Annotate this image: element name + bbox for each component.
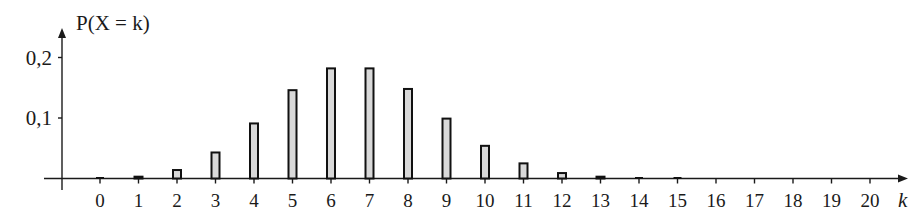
x-tick-label: 11	[514, 190, 532, 211]
x-ticks: 01234567891011121314151617181920	[95, 179, 879, 212]
x-tick-label: 10	[476, 190, 495, 211]
x-tick-label: 2	[172, 190, 182, 211]
bar	[597, 177, 605, 179]
x-tick-label: 6	[326, 190, 336, 211]
bar	[443, 119, 451, 179]
bar	[250, 123, 258, 178]
x-tick-label: 5	[288, 190, 298, 211]
x-axis-arrow-icon	[898, 175, 908, 183]
x-tick-label: 15	[668, 190, 687, 211]
x-tick-label: 18	[784, 190, 803, 211]
bar	[558, 173, 566, 178]
x-tick-label: 9	[442, 190, 452, 211]
bar	[520, 163, 528, 178]
x-tick-label: 13	[591, 190, 610, 211]
x-tick-label: 7	[365, 190, 375, 211]
bar	[404, 89, 412, 179]
probability-bar-chart: 0,10,2 01234567891011121314151617181920 …	[0, 0, 924, 224]
x-tick-label: 3	[211, 190, 221, 211]
y-tick-label: 0,1	[26, 106, 52, 130]
y-ticks: 0,10,2	[26, 46, 62, 131]
bar	[481, 146, 489, 179]
x-tick-label: 12	[553, 190, 572, 211]
x-tick-label: 1	[134, 190, 144, 211]
x-tick-label: 4	[249, 190, 259, 211]
x-tick-label: 14	[630, 190, 650, 211]
bar	[173, 170, 181, 178]
axes	[44, 28, 908, 190]
bar	[366, 68, 374, 178]
y-axis-arrow-icon	[58, 28, 66, 38]
bar	[135, 177, 143, 179]
x-tick-label: 16	[707, 190, 726, 211]
x-tick-label: 0	[95, 190, 105, 211]
x-tick-label: 8	[403, 190, 413, 211]
bar	[327, 68, 335, 178]
x-tick-label: 19	[822, 190, 841, 211]
bar	[289, 90, 297, 178]
y-tick-label: 0,2	[26, 46, 52, 70]
x-axis-label: k	[898, 188, 908, 212]
x-tick-label: 20	[861, 190, 880, 211]
x-tick-label: 17	[745, 190, 764, 211]
bar	[212, 152, 220, 178]
y-axis-title: P(X = k)	[76, 11, 150, 35]
bars	[96, 68, 682, 178]
